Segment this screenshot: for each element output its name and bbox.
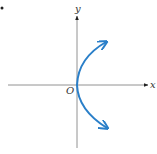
x-axis-label: x: [150, 79, 156, 90]
parabola-upper-branch: [77, 42, 106, 85]
parabola-lower-branch: [77, 85, 107, 128]
y-axis-label: y: [74, 3, 81, 14]
diagram-canvas: y x O: [0, 0, 157, 154]
bullet-marker: [1, 7, 4, 10]
origin-label: O: [66, 85, 74, 96]
